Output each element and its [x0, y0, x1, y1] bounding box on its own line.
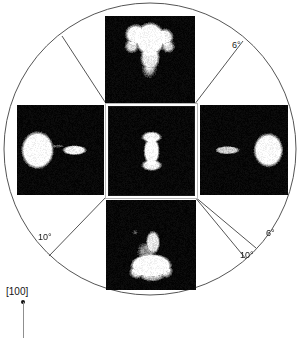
direction-label: [100]	[6, 286, 28, 297]
panel-top-image	[105, 16, 195, 104]
direction-arrow-stem	[23, 302, 24, 338]
sector-line-upper-left-divider	[62, 36, 107, 105]
angle-label-bottom-right-6: 6°	[266, 228, 275, 238]
sector-line-lower-right-divider-10	[194, 196, 246, 259]
panel-left-image	[17, 105, 104, 195]
panel-left	[17, 105, 104, 195]
sector-line-lower-left-divider	[49, 196, 107, 256]
angle-label-bottom-right-10: 10°	[240, 250, 254, 260]
angle-label-top-right-6: 6°	[232, 40, 241, 50]
panel-top	[105, 16, 195, 104]
angle-label-bottom-left-10: 10°	[38, 232, 52, 242]
sector-line-lower-right-divider-6	[194, 196, 256, 248]
panel-right-image	[200, 105, 288, 195]
panel-center-image	[109, 107, 194, 195]
panel-center	[108, 106, 195, 196]
panel-bottom-image	[106, 200, 196, 290]
stereographic-diffraction-figure: 6°6°10°10° [100]	[0, 0, 304, 340]
sector-line-upper-right-divider	[194, 41, 243, 105]
direction-indicator: [100]	[6, 286, 52, 338]
panel-right	[200, 105, 288, 195]
panel-bottom	[106, 200, 196, 290]
